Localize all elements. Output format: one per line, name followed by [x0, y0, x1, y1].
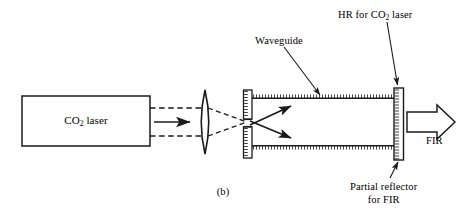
- panel-caption: (b): [213, 186, 233, 199]
- co2-laser-label: CO2 laser: [22, 114, 150, 128]
- waveguide-wall-top: [252, 94, 396, 98]
- leader-hr: [387, 22, 398, 85]
- beam-converge-upper: [208, 108, 247, 122]
- partial-reflector-line2: for FIR: [350, 194, 417, 207]
- waveguide-label: Waveguide: [255, 35, 303, 48]
- beam-converge-lower: [208, 122, 247, 136]
- hr-mirror-label: HR for CO2 laser: [338, 9, 412, 22]
- partial-reflector-line1: Partial reflector: [350, 181, 417, 194]
- waveguide-wall-bottom: [252, 146, 396, 150]
- ray-diverge-down: [250, 121, 291, 138]
- output-mirror: [394, 88, 404, 160]
- optics-schematic-figure: CO2 laser Waveguide HR for CO2 laser Par…: [0, 0, 466, 214]
- leader-partial-reflector: [390, 162, 398, 178]
- fir-output-arrow: [407, 105, 455, 139]
- fir-output-label: FIR: [426, 135, 443, 148]
- ray-diverge-up: [250, 106, 291, 125]
- focusing-lens: [201, 90, 209, 154]
- partial-reflector-label: Partial reflector for FIR: [350, 181, 417, 207]
- leader-waveguide: [284, 47, 320, 95]
